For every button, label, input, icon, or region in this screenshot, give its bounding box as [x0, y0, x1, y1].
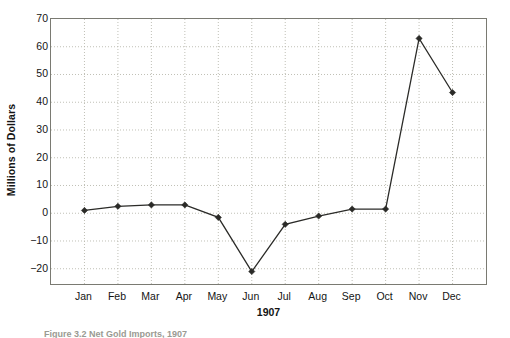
data-point-marker: [115, 203, 121, 209]
data-point-marker: [182, 202, 188, 208]
data-point-marker: [316, 213, 322, 219]
data-point-marker: [349, 206, 355, 212]
x-tick-label: Sep: [342, 290, 361, 302]
x-tick-label: Oct: [376, 290, 392, 302]
x-tick-label: Feb: [108, 290, 126, 302]
data-point-marker: [416, 35, 422, 41]
x-tick-label: Jan: [75, 290, 92, 302]
horizontal-gridlines: [51, 47, 486, 269]
figure-root: Millions of Dollars 706050403020100−10−2…: [0, 0, 510, 338]
x-axis-title: 1907: [50, 306, 487, 318]
data-point-marker: [148, 202, 154, 208]
data-point-marker: [215, 214, 221, 220]
x-tick-label: Jun: [242, 290, 259, 302]
data-point-marker: [383, 206, 389, 212]
figure-caption: Figure 3.2 Net Gold Imports, 1907: [44, 329, 187, 338]
x-tick-label: Mar: [141, 290, 159, 302]
data-point-marker: [449, 89, 455, 95]
line-chart-svg: [51, 19, 486, 284]
data-series-line: [84, 38, 452, 271]
x-tick-label: Jul: [278, 290, 291, 302]
x-tick-label: Aug: [308, 290, 327, 302]
x-tick-label: Apr: [176, 290, 192, 302]
x-tick-label: Dec: [442, 290, 461, 302]
plot-area: [50, 18, 487, 285]
x-tick-label: May: [207, 290, 227, 302]
data-point-marker: [81, 207, 87, 213]
x-tick-label: Nov: [409, 290, 428, 302]
data-point-markers: [81, 35, 455, 274]
